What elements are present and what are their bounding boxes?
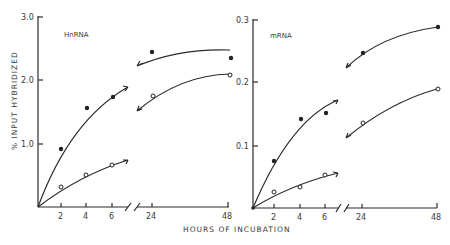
data-point-filled: [361, 51, 365, 55]
data-point-open: [110, 163, 114, 167]
data-point-open: [151, 94, 155, 98]
x-tick: 4: [83, 212, 88, 221]
data-point-filled: [299, 117, 303, 121]
data-point-filled: [272, 159, 276, 163]
data-point-origin: [251, 206, 255, 210]
data-point-filled: [111, 95, 115, 99]
panel-title: mRNA: [270, 32, 292, 40]
data-point-open: [298, 185, 302, 189]
x-tick: 24: [146, 212, 156, 221]
data-point-filled: [59, 147, 63, 151]
y-tick: 1.0: [21, 140, 34, 149]
y-tick: 0.1: [236, 142, 249, 151]
panel-mrna: mRNA 0.3 0.2 0.1 2 4 6 24 48: [236, 16, 441, 222]
x-axis-label: HOURS OF INCUBATION: [183, 225, 291, 234]
curve-filled-early: [253, 100, 338, 208]
data-point-open: [228, 73, 232, 77]
data-point-open: [361, 121, 365, 125]
x-tick: 48: [431, 213, 441, 222]
y-axis-label: % INPUT HYBRIDIZED: [10, 51, 19, 150]
hybridization-chart: % INPUT HYBRIDIZED HOURS OF INCUBATION H…: [0, 0, 450, 245]
curve-filled-late: [346, 27, 438, 68]
data-point-open: [323, 173, 327, 177]
curve-open-late: [137, 74, 230, 111]
x-tick: 2: [271, 213, 276, 222]
x-tick: 6: [322, 213, 327, 222]
data-point-filled: [229, 56, 233, 60]
y-tick: 0.2: [236, 78, 249, 87]
x-tick: 24: [356, 213, 366, 222]
y-tick: 3.0: [21, 13, 34, 22]
x-tick: 48: [222, 212, 232, 221]
data-point-filled: [324, 111, 328, 115]
panel-hnrna: HnRNA 3.0 2.0 1.0 2 4 6 24 48: [21, 13, 233, 221]
x-tick: 6: [109, 212, 114, 221]
data-point-filled: [85, 106, 89, 110]
y-tick: 2.0: [21, 76, 34, 85]
curve-filled-early: [38, 86, 128, 207]
x-tick: 4: [297, 213, 302, 222]
curve-open-late: [346, 89, 437, 138]
data-point-open: [59, 185, 63, 189]
x-tick: 2: [58, 212, 63, 221]
data-point-open: [84, 173, 88, 177]
data-point-filled: [436, 25, 440, 29]
panel-title: HnRNA: [64, 31, 89, 39]
data-point-filled: [150, 50, 154, 54]
y-tick: 0.3: [236, 16, 249, 25]
curve-open-early: [38, 160, 128, 207]
data-point-open: [436, 87, 440, 91]
data-point-open: [272, 190, 276, 194]
